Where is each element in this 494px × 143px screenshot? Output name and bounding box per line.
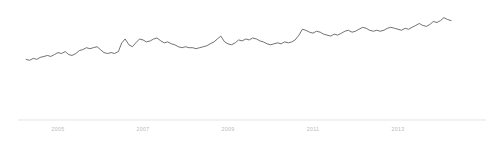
x-axis-tick-label: 2005 (52, 126, 65, 133)
x-axis-tick-label: 2011 (307, 126, 320, 133)
x-axis-tick-label: 2013 (392, 126, 405, 133)
x-axis-tick-label: 2009 (222, 126, 235, 133)
sparkline-chart: 20052007200920112013 (0, 0, 494, 143)
x-axis-tick-label: 2007 (137, 126, 150, 133)
series-line-path (26, 18, 451, 61)
chart-plot-area (0, 0, 494, 143)
